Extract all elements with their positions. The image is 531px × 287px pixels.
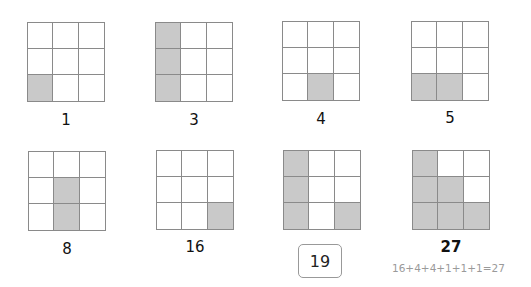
panel-value: 1 [27,111,105,129]
empty-cell [29,204,54,230]
shaded-cell [413,151,438,177]
shaded-cell [438,203,463,229]
grid-3x3 [155,22,233,102]
panel-8: 8 [28,151,106,231]
empty-cell [79,75,104,101]
grid-3x3 [412,150,490,230]
shaded-cell [156,75,181,101]
empty-cell [335,151,360,177]
empty-cell [309,177,334,203]
empty-cell [437,48,462,74]
panel-16: 16 [156,150,234,230]
empty-cell [54,152,79,178]
empty-cell [79,23,104,49]
panel-1: 1 [27,22,105,102]
shaded-cell [412,74,437,100]
shaded-cell [284,177,309,203]
empty-cell [157,151,182,177]
shaded-cell [208,203,233,229]
empty-cell [463,74,488,100]
panel-value: 8 [28,240,106,258]
empty-cell [208,177,233,203]
panel-value: 5 [411,109,489,127]
shaded-cell [413,177,438,203]
shaded-cell [156,49,181,75]
shaded-cell [308,74,333,100]
shaded-cell [335,203,360,229]
empty-cell [308,22,333,48]
empty-cell [437,22,462,48]
empty-cell [463,22,488,48]
panel-27: 27 [412,150,490,230]
empty-cell [182,203,207,229]
empty-cell [207,75,232,101]
empty-cell [208,151,233,177]
empty-cell [464,177,489,203]
empty-cell [464,151,489,177]
panel-value: 4 [282,110,360,128]
shaded-cell [284,203,309,229]
panel-4: 4 [282,21,360,101]
empty-cell [53,23,78,49]
empty-cell [334,22,359,48]
empty-cell [283,74,308,100]
shaded-cell [437,74,462,100]
panel-value: 16 [156,238,234,256]
empty-cell [157,203,182,229]
panel-3: 3 [155,22,233,102]
empty-cell [53,75,78,101]
panel-19 [283,150,361,230]
empty-cell [181,49,206,75]
shaded-cell [54,204,79,230]
empty-cell [207,49,232,75]
grid-3x3 [27,22,105,102]
grid-3x3 [411,21,489,101]
empty-cell [334,74,359,100]
answer-box[interactable]: 19 [298,244,342,278]
grid-3x3 [283,150,361,230]
panel-value: 27 [412,238,490,256]
empty-cell [28,49,53,75]
empty-cell [283,48,308,74]
empty-cell [335,177,360,203]
empty-cell [207,23,232,49]
panel-value: 3 [155,111,233,129]
empty-cell [79,49,104,75]
empty-cell [181,75,206,101]
empty-cell [438,151,463,177]
grid-3x3 [156,150,234,230]
grid-3x3 [282,21,360,101]
empty-cell [28,23,53,49]
sum-formula: 16+4+4+1+1+1=27 [392,262,505,274]
empty-cell [283,22,308,48]
shaded-cell [54,178,79,204]
empty-cell [182,151,207,177]
empty-cell [80,152,105,178]
shaded-cell [464,203,489,229]
grid-3x3 [28,151,106,231]
empty-cell [53,49,78,75]
empty-cell [412,48,437,74]
panel-5: 5 [411,21,489,101]
shaded-cell [438,177,463,203]
empty-cell [308,48,333,74]
empty-cell [157,177,182,203]
empty-cell [463,48,488,74]
empty-cell [309,203,334,229]
empty-cell [29,178,54,204]
shaded-cell [28,75,53,101]
empty-cell [80,204,105,230]
empty-cell [334,48,359,74]
empty-cell [29,152,54,178]
empty-cell [309,151,334,177]
empty-cell [182,177,207,203]
empty-cell [181,23,206,49]
shaded-cell [156,23,181,49]
shaded-cell [413,203,438,229]
shaded-cell [284,151,309,177]
empty-cell [80,178,105,204]
empty-cell [412,22,437,48]
